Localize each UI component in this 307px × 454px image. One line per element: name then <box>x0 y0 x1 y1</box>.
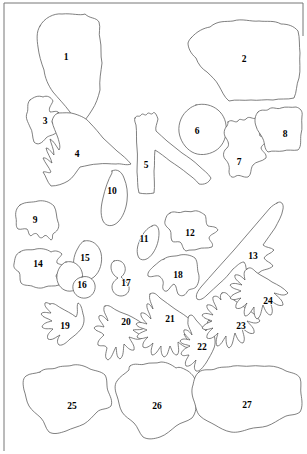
shape-number-label-19: 19 <box>60 321 70 331</box>
shape-number-label-15: 15 <box>80 253 90 263</box>
shape-number-label-21: 21 <box>165 314 175 324</box>
shape-number-label-17: 17 <box>121 278 131 288</box>
shape-number-label-24: 24 <box>263 296 273 306</box>
shape-number-label-23: 23 <box>236 321 246 331</box>
shape-number-label-18: 18 <box>173 270 183 280</box>
outline-drawing-canvas: 1234567891011121314151617181920212223242… <box>0 0 307 454</box>
shape-number-label-10: 10 <box>107 186 117 196</box>
figure-plate: 1234567891011121314151617181920212223242… <box>0 0 307 454</box>
shape-number-label-27: 27 <box>242 400 252 410</box>
shape-number-label-14: 14 <box>33 259 43 269</box>
shape-number-label-11: 11 <box>140 234 149 244</box>
shape-number-label-16: 16 <box>77 280 87 290</box>
shape-number-label-2: 2 <box>242 54 247 64</box>
shape-number-label-4: 4 <box>75 149 80 159</box>
shape-number-label-7: 7 <box>237 157 242 167</box>
shape-outline-6 <box>179 104 226 154</box>
shape-number-label-13: 13 <box>248 251 258 261</box>
shape-number-label-26: 26 <box>152 401 162 411</box>
shape-number-label-1: 1 <box>64 52 69 62</box>
shape-number-label-25: 25 <box>67 401 77 411</box>
shape-number-label-22: 22 <box>197 342 207 352</box>
shape-number-label-3: 3 <box>43 116 48 126</box>
shape-number-label-12: 12 <box>185 228 195 238</box>
shape-number-label-20: 20 <box>121 317 131 327</box>
shape-number-label-6: 6 <box>195 126 200 136</box>
shape-number-label-8: 8 <box>283 129 288 139</box>
shape-number-label-9: 9 <box>33 215 38 225</box>
shape-number-label-5: 5 <box>144 160 149 170</box>
